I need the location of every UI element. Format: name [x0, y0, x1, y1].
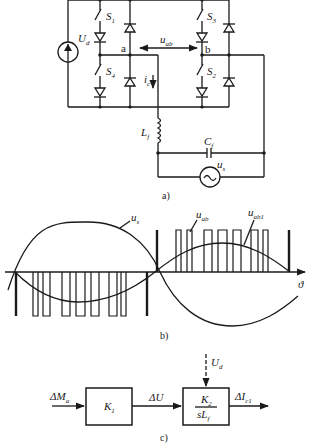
k2-numerator: K2 [200, 393, 212, 408]
ic-label: ic [144, 73, 151, 88]
theta-label: ϑ [298, 278, 304, 290]
ac-source-icon [200, 167, 220, 187]
diode-icon [125, 24, 135, 32]
uab-negative-pulses [16, 272, 147, 316]
s3-label: S3 [207, 10, 217, 25]
cf-label: Cf [204, 135, 214, 150]
panel-c-block-diagram: ΔMa K1 ΔU K2 sLf Ud ΔIc1 c) [49, 354, 268, 444]
inductor-icon [158, 118, 161, 143]
switch-s4-icon [95, 64, 101, 75]
uab-positive-pulses [157, 230, 289, 272]
diode-icon [94, 88, 106, 97]
input-label: ΔMa [49, 390, 70, 405]
panel-b-waveforms: ϑ us [5, 206, 305, 342]
caption-b: b) [160, 330, 168, 342]
diode-icon [224, 78, 234, 86]
caption-c: c) [160, 432, 168, 444]
delta-u-label: ΔU [148, 391, 164, 403]
switch-s2-icon [197, 64, 203, 75]
output-label: ΔIc1 [234, 390, 252, 405]
panel-a-circuit: Ud S1 S4 [58, 0, 266, 202]
k1-label: K1 [103, 400, 115, 415]
s2-label: S2 [207, 65, 217, 80]
s4-label: S4 [106, 65, 116, 80]
diode-icon [196, 33, 208, 42]
lf-label: Lf [140, 126, 150, 141]
k2-denominator: sLf [197, 408, 210, 423]
dc-source-icon [58, 42, 78, 62]
diode-icon [224, 24, 234, 32]
switch-s3-icon [197, 9, 203, 20]
caption-a: a) [162, 190, 170, 202]
ud-disturbance-label: Ud [211, 356, 223, 371]
node-b-label: b [205, 43, 211, 55]
diode-icon [94, 33, 106, 42]
uab-wave-label: uab [196, 208, 209, 223]
s1-label: S1 [106, 10, 115, 25]
uab-label: uab [160, 33, 173, 48]
node-a-label: a [121, 42, 126, 54]
ud-label: Ud [78, 32, 90, 47]
uab1-wave-label: uab1 [248, 206, 264, 221]
diagram-canvas: Ud S1 S4 [0, 0, 315, 448]
us-wave-label: us [131, 211, 140, 226]
switch-s1-icon [95, 9, 101, 20]
diode-icon [125, 78, 135, 86]
diode-icon [196, 88, 208, 97]
